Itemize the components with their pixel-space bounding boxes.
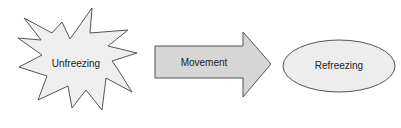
- unfreezing-stage: Unfreezing: [18, 8, 137, 110]
- refreezing-label: Refreezing: [315, 60, 363, 71]
- movement-label: Movement: [181, 57, 228, 68]
- unfreezing-label: Unfreezing: [52, 58, 100, 69]
- refreezing-stage: Refreezing: [283, 40, 395, 92]
- movement-stage: Movement: [155, 32, 271, 97]
- change-model-diagram: Unfreezing Movement Refreezing: [0, 0, 401, 128]
